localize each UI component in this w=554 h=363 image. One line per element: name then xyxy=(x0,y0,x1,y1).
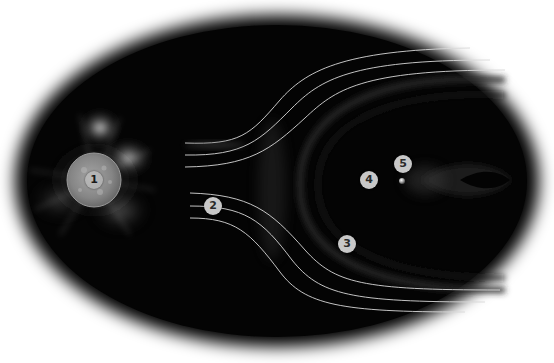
plasma-region xyxy=(258,120,286,260)
marker-2-solar-wind[interactable]: 2 xyxy=(204,197,222,215)
magnetotail-glow xyxy=(405,166,445,194)
diagram-scene xyxy=(0,0,554,363)
wind-streak xyxy=(185,142,245,148)
earth xyxy=(399,178,405,184)
marker-1-sun[interactable]: 1 xyxy=(85,171,103,189)
marker-5-earth[interactable]: 5 xyxy=(394,155,412,173)
marker-4-magnetosphere[interactable]: 4 xyxy=(360,171,378,189)
marker-3-bow-shock[interactable]: 3 xyxy=(338,235,356,253)
space-weather-diagram: 1 2 3 4 5 xyxy=(0,0,554,363)
